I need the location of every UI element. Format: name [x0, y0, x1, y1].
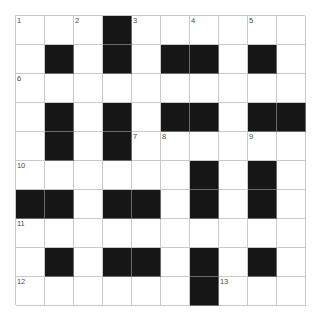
- crossword-letter-cell[interactable]: 8: [161, 132, 190, 161]
- crossword-letter-cell[interactable]: [74, 74, 103, 103]
- crossword-letter-cell[interactable]: [248, 74, 277, 103]
- cell-number: 11: [17, 219, 24, 228]
- crossword-letter-cell[interactable]: 11: [16, 219, 45, 248]
- crossword-letter-cell[interactable]: [103, 277, 132, 306]
- crossword-letter-cell[interactable]: [277, 45, 306, 74]
- crossword-block-cell: [45, 103, 74, 132]
- crossword-block-cell: [248, 161, 277, 190]
- crossword-letter-cell[interactable]: [103, 161, 132, 190]
- crossword-block-cell: [45, 190, 74, 219]
- crossword-letter-cell[interactable]: [103, 74, 132, 103]
- crossword-letter-cell[interactable]: [190, 74, 219, 103]
- crossword-letter-cell[interactable]: 1: [16, 16, 45, 45]
- crossword-block-cell: [190, 190, 219, 219]
- crossword-letter-cell[interactable]: [16, 248, 45, 277]
- crossword-letter-cell[interactable]: [161, 190, 190, 219]
- crossword-letter-cell[interactable]: [74, 219, 103, 248]
- crossword-letter-cell[interactable]: [219, 45, 248, 74]
- crossword-letter-cell[interactable]: [161, 219, 190, 248]
- crossword-block-cell: [248, 103, 277, 132]
- crossword-letter-cell[interactable]: [277, 161, 306, 190]
- crossword-letter-cell[interactable]: [190, 132, 219, 161]
- crossword-letter-cell[interactable]: [219, 74, 248, 103]
- crossword-letter-cell[interactable]: [132, 219, 161, 248]
- crossword-letter-cell[interactable]: [45, 16, 74, 45]
- crossword-letter-cell[interactable]: 2: [74, 16, 103, 45]
- cell-number: 6: [17, 74, 21, 83]
- crossword-letter-cell[interactable]: [190, 219, 219, 248]
- crossword-letter-cell[interactable]: 5: [248, 16, 277, 45]
- crossword-letter-cell[interactable]: [219, 103, 248, 132]
- crossword-letter-cell[interactable]: 7: [132, 132, 161, 161]
- crossword-letter-cell[interactable]: 6: [16, 74, 45, 103]
- crossword-letter-cell[interactable]: [103, 219, 132, 248]
- crossword-block-cell: [132, 190, 161, 219]
- cell-number: 7: [133, 132, 137, 141]
- crossword-letter-cell[interactable]: [277, 190, 306, 219]
- crossword-letter-cell[interactable]: [45, 277, 74, 306]
- crossword-letter-cell[interactable]: [219, 132, 248, 161]
- crossword-letter-cell[interactable]: [219, 161, 248, 190]
- crossword-block-cell: [161, 45, 190, 74]
- crossword-grid[interactable]: 12345678910111213: [15, 15, 305, 305]
- crossword-puzzle: 12345678910111213: [15, 15, 305, 305]
- crossword-letter-cell[interactable]: [219, 16, 248, 45]
- crossword-letter-cell[interactable]: [74, 45, 103, 74]
- crossword-letter-cell[interactable]: [132, 74, 161, 103]
- crossword-letter-cell[interactable]: 10: [16, 161, 45, 190]
- crossword-letter-cell[interactable]: [132, 161, 161, 190]
- crossword-letter-cell[interactable]: [16, 103, 45, 132]
- crossword-letter-cell[interactable]: [45, 161, 74, 190]
- crossword-letter-cell[interactable]: [132, 45, 161, 74]
- crossword-letter-cell[interactable]: [74, 190, 103, 219]
- crossword-letter-cell[interactable]: [74, 103, 103, 132]
- crossword-letter-cell[interactable]: 13: [219, 277, 248, 306]
- crossword-letter-cell[interactable]: [277, 74, 306, 103]
- crossword-block-cell: [190, 161, 219, 190]
- crossword-letter-cell[interactable]: [161, 161, 190, 190]
- cell-number: 5: [249, 16, 253, 25]
- crossword-letter-cell[interactable]: [161, 277, 190, 306]
- crossword-letter-cell[interactable]: [161, 16, 190, 45]
- cell-number: 4: [191, 16, 195, 25]
- crossword-letter-cell[interactable]: [219, 219, 248, 248]
- crossword-letter-cell[interactable]: [277, 277, 306, 306]
- crossword-letter-cell[interactable]: 3: [132, 16, 161, 45]
- crossword-letter-cell[interactable]: [45, 74, 74, 103]
- crossword-letter-cell[interactable]: 12: [16, 277, 45, 306]
- crossword-block-cell: [190, 277, 219, 306]
- crossword-letter-cell[interactable]: [74, 248, 103, 277]
- crossword-letter-cell[interactable]: [45, 219, 74, 248]
- crossword-letter-cell[interactable]: [277, 16, 306, 45]
- crossword-letter-cell[interactable]: [277, 132, 306, 161]
- crossword-letter-cell[interactable]: [132, 277, 161, 306]
- crossword-letter-cell[interactable]: [161, 74, 190, 103]
- crossword-letter-cell[interactable]: [16, 45, 45, 74]
- crossword-block-cell: [103, 132, 132, 161]
- crossword-block-cell: [103, 103, 132, 132]
- crossword-letter-cell[interactable]: [74, 132, 103, 161]
- crossword-letter-cell[interactable]: 9: [248, 132, 277, 161]
- crossword-letter-cell[interactable]: [219, 248, 248, 277]
- crossword-letter-cell[interactable]: [161, 248, 190, 277]
- crossword-letter-cell[interactable]: [132, 103, 161, 132]
- crossword-block-cell: [277, 103, 306, 132]
- crossword-letter-cell[interactable]: [74, 161, 103, 190]
- crossword-block-cell: [132, 248, 161, 277]
- crossword-letter-cell[interactable]: [248, 277, 277, 306]
- crossword-letter-cell[interactable]: [277, 219, 306, 248]
- crossword-block-cell: [103, 16, 132, 45]
- crossword-block-cell: [248, 190, 277, 219]
- crossword-block-cell: [248, 248, 277, 277]
- cell-number: 8: [162, 132, 166, 141]
- crossword-letter-cell[interactable]: 4: [190, 16, 219, 45]
- crossword-block-cell: [103, 248, 132, 277]
- crossword-block-cell: [190, 103, 219, 132]
- cell-number: 2: [75, 16, 79, 25]
- crossword-block-cell: [45, 132, 74, 161]
- crossword-letter-cell[interactable]: [277, 248, 306, 277]
- crossword-letter-cell[interactable]: [248, 219, 277, 248]
- crossword-letter-cell[interactable]: [74, 277, 103, 306]
- crossword-letter-cell[interactable]: [16, 132, 45, 161]
- crossword-letter-cell[interactable]: [219, 190, 248, 219]
